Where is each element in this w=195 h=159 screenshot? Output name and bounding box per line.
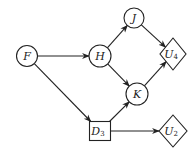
chance-node-h: H — [89, 45, 111, 67]
edge-h-to-j — [107, 25, 127, 47]
edge-k-to-u4 — [144, 62, 166, 86]
node-subscript: 3 — [100, 130, 104, 138]
chance-node-j: J — [124, 8, 144, 28]
node-subscript: 4 — [173, 53, 178, 61]
edge-f-to-d3 — [34, 64, 90, 122]
edge-h-to-k — [108, 64, 130, 86]
edges-layer — [34, 25, 166, 131]
influence-diagram: FHJKD3U4U2 — [0, 0, 195, 159]
chance-node-k: K — [126, 83, 148, 105]
node-label: J — [130, 12, 137, 25]
node-label: K — [132, 88, 142, 101]
chance-node-f: F — [17, 46, 38, 67]
utility-node-u2: U2 — [159, 115, 187, 147]
utility-node-u4: U4 — [160, 38, 186, 70]
node-label: F — [22, 50, 31, 63]
edge-d3-to-k — [110, 102, 130, 122]
edge-j-to-u4 — [141, 25, 165, 47]
node-subscript: 2 — [173, 130, 177, 138]
decision-node-d3: D3 — [90, 122, 111, 141]
node-label: H — [94, 50, 105, 63]
nodes-layer: FHJKD3U4U2 — [17, 8, 188, 147]
